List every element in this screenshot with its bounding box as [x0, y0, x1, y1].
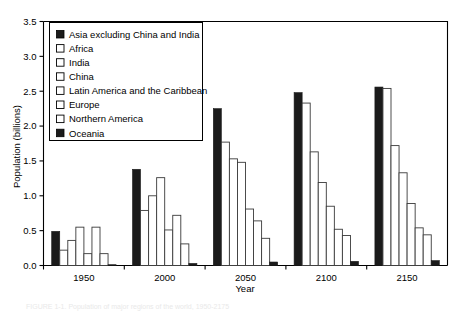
x-tick-label: 1950: [73, 272, 94, 283]
bar: [76, 227, 84, 265]
population-bar-chart: Population (billions) 0.00.51.01.52.02.5…: [0, 0, 460, 313]
x-axis-title: Year: [235, 283, 254, 294]
bar: [92, 227, 100, 265]
bar: [270, 262, 278, 265]
bar: [213, 109, 221, 266]
legend-swatch-icon: [57, 129, 65, 137]
bar: [149, 196, 157, 266]
y-axis-title-text: Population (billions): [11, 105, 22, 188]
legend-item-label: India: [69, 57, 90, 68]
y-tick-label: 2.0: [23, 120, 36, 131]
bar: [52, 231, 60, 265]
bar: [399, 173, 407, 266]
bar: [375, 87, 383, 265]
bar: [246, 209, 254, 265]
bar: [294, 93, 302, 266]
bar: [318, 183, 326, 266]
bar: [254, 221, 262, 266]
bar: [342, 236, 350, 266]
legend-swatch-icon: [57, 87, 65, 95]
bar: [133, 169, 141, 265]
bar: [173, 215, 181, 265]
y-axis-title: Population (billions): [11, 105, 22, 188]
figure-container: Population (billions) 0.00.51.01.52.02.5…: [0, 0, 460, 313]
bar: [84, 254, 92, 266]
bar: [431, 261, 439, 266]
bar: [229, 159, 237, 266]
bar: [221, 142, 229, 265]
bar: [68, 240, 76, 265]
y-tick-label: 0.5: [23, 225, 36, 236]
bar: [334, 229, 342, 265]
y-tick-label: 3.5: [23, 16, 36, 27]
legend-swatch-icon: [57, 115, 65, 123]
legend-swatch-icon: [57, 31, 65, 39]
bar: [141, 210, 149, 265]
y-tick-label: 1.5: [23, 155, 36, 166]
y-tick-label: 0.0: [23, 260, 36, 271]
bar: [310, 152, 318, 266]
legend-item: Europe: [57, 99, 100, 110]
chart-legend: Asia excluding China and IndiaAfricaIndi…: [50, 23, 208, 141]
bar: [383, 88, 391, 265]
bar: [407, 203, 415, 265]
bar: [326, 206, 334, 265]
bar: [302, 103, 310, 265]
legend-item-label: Latin America and the Caribbean: [69, 85, 207, 96]
y-tick-label: 2.5: [23, 86, 36, 97]
x-tick-label: 2100: [316, 272, 337, 283]
x-tick-label: 2050: [235, 272, 256, 283]
legend-item: Northern America: [57, 113, 144, 124]
bar: [189, 263, 197, 265]
legend-swatch-icon: [57, 101, 65, 109]
bar: [165, 230, 173, 266]
legend-item: Asia excluding China and India: [57, 29, 201, 40]
legend-item-label: Europe: [69, 99, 100, 110]
bar: [350, 261, 358, 265]
legend-swatch-icon: [57, 73, 65, 81]
legend-item-label: Oceania: [69, 128, 105, 139]
bar: [181, 244, 189, 266]
figure-caption: FIGURE 1-1. Population of major regions …: [26, 303, 229, 311]
legend-item: Africa: [57, 43, 95, 54]
y-tick-label: 1.0: [23, 190, 36, 201]
bar: [415, 228, 423, 266]
legend-item: India: [57, 57, 91, 68]
bar: [60, 250, 68, 265]
bar: [237, 162, 245, 265]
legend-item: Latin America and the Caribbean: [57, 85, 208, 96]
legend-item-label: Asia excluding China and India: [69, 29, 200, 40]
x-tick-label: 2000: [154, 272, 175, 283]
bar: [391, 146, 399, 266]
bar: [157, 178, 165, 266]
legend-item-label: Northern America: [69, 113, 144, 124]
bar: [262, 238, 270, 265]
legend-item-label: China: [69, 71, 95, 82]
legend-swatch-icon: [57, 45, 65, 53]
legend-item: Oceania: [57, 128, 106, 139]
bar: [423, 235, 431, 266]
x-tick-label: 2150: [397, 272, 418, 283]
legend-item: China: [57, 71, 95, 82]
bar: [100, 254, 108, 266]
bar: [108, 265, 116, 266]
legend-item-label: Africa: [69, 43, 94, 54]
y-tick-label: 3.0: [23, 51, 36, 62]
x-axis-title-text: Year: [235, 283, 254, 294]
legend-swatch-icon: [57, 59, 65, 66]
